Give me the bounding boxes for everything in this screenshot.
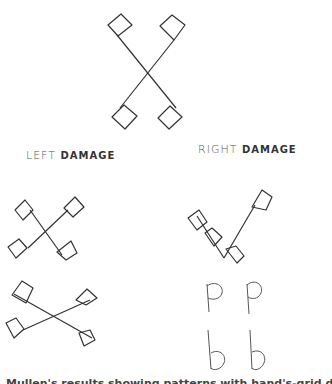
left-damage-label: LEFT DAMAGE [26,149,115,162]
left-damage-x-lower [6,281,97,346]
right-damage-figure [188,190,272,263]
diagram-canvas [0,0,332,384]
right-damage-label-prefix: RIGHT [198,143,237,156]
left-damage-label-prefix: LEFT [26,149,56,162]
cropped-caption: Mullen's results showing patterns with h… [6,378,332,384]
left-damage-label-suffix: DAMAGE [60,150,115,161]
right-damage-label: RIGHT DAMAGE [198,143,297,156]
caption-text: Mullen's results showing patterns with h… [6,378,332,384]
letter-glyphs [207,282,265,369]
top-x-figure [108,14,185,129]
right-damage-label-suffix: DAMAGE [242,144,297,155]
left-damage-x-upper [8,197,84,260]
